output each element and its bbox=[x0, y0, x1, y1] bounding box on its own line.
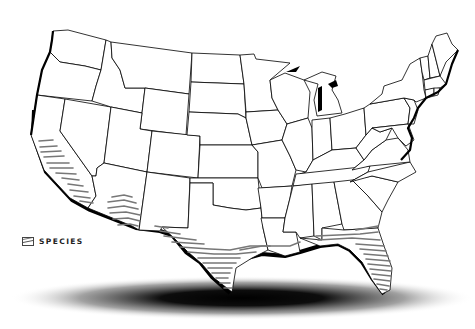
state-colorado bbox=[147, 131, 200, 178]
map-shadow bbox=[10, 276, 474, 320]
state-new-york bbox=[370, 58, 426, 104]
states bbox=[31, 30, 458, 294]
state-iowa bbox=[246, 110, 287, 145]
state-kansas bbox=[198, 145, 258, 178]
state-north-dakota bbox=[191, 53, 244, 84]
us-range-map: SPECIES bbox=[0, 0, 475, 329]
state-new-mexico bbox=[139, 172, 190, 231]
hatch-swatch-icon bbox=[22, 237, 34, 246]
map-canvas bbox=[0, 0, 475, 329]
lake-michigan bbox=[318, 86, 322, 112]
state-wyoming bbox=[140, 88, 189, 135]
legend-label: SPECIES bbox=[39, 237, 84, 246]
legend: SPECIES bbox=[22, 237, 84, 246]
lake-superior bbox=[286, 66, 300, 72]
